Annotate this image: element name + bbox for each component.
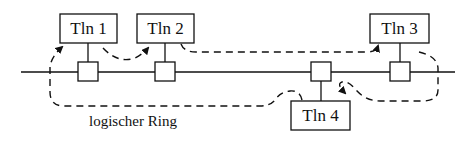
logical-ring: [50, 44, 438, 106]
ring-arrow-tln2-tln3: [181, 44, 378, 52]
ring-label: logischer Ring: [89, 113, 177, 129]
tap-square-tln3: [390, 62, 410, 81]
tap-square-tln4: [311, 62, 331, 81]
tap-square-tln1: [78, 62, 98, 81]
station-tln2: Tln 2: [137, 14, 194, 81]
node-label-tln4: Tln 4: [302, 106, 339, 125]
ring-arrow-tln1-tln2: [103, 48, 148, 60]
ring-arrow-tln3-tln4: [340, 52, 438, 101]
node-label-tln1: Tln 1: [70, 19, 106, 38]
node-label-tln3: Tln 3: [381, 19, 417, 38]
tap-square-tln2: [155, 62, 175, 81]
station-tln1: Tln 1: [60, 14, 117, 81]
station-tln3: Tln 3: [370, 14, 429, 81]
token-bus-diagram: Tln 1 Tln 2 Tln 3 Tln 4 logischer Ring: [0, 0, 472, 142]
node-label-tln2: Tln 2: [147, 19, 183, 38]
